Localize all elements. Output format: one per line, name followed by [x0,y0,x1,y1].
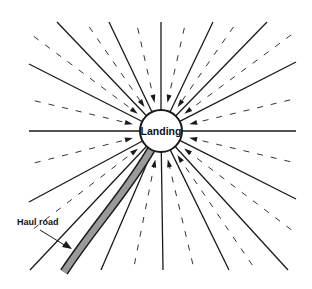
skid-flow-dashed-line [35,101,127,123]
skid-flow-dashed-line [195,139,290,162]
landing-skid-pattern-diagram: Landing Haul road [0,0,312,289]
flow-arrowhead [151,159,156,167]
skid-flow-dashed-line [35,140,127,163]
skid-trail-boundary-line [180,62,296,121]
flow-arrowhead [184,149,192,156]
haul-road-leader-line [40,230,66,246]
flow-arrowhead [178,99,185,107]
flow-arrowhead [138,99,145,107]
flow-arrowhead [167,94,172,102]
skid-flow-dashed-line [134,165,154,264]
skid-trail-boundary-line [170,150,229,270]
skid-flow-dashed-line [169,165,193,264]
flow-arrowhead [125,138,133,143]
haul-road-label: Haul road [17,217,59,227]
flow-arrowhead [124,120,132,125]
flow-arrowhead [189,120,197,125]
haul-road-leader-arrowhead [62,241,72,249]
flow-arrowhead [130,107,138,114]
flow-arrowhead [184,107,192,114]
flow-arrowhead [130,149,138,156]
skid-trail-boundary-line [30,146,147,270]
flow-arrowhead [150,94,155,102]
skid-trail-boundary-line [176,22,267,116]
flow-arrowhead [167,159,172,167]
flow-arrowhead [177,155,184,163]
skid-trail-boundary-line [170,22,213,112]
skid-trail-boundary-line [57,22,147,116]
skid-flow-dashed-line [181,160,253,265]
landing-label: Landing [141,125,182,137]
skid-trail-boundary-line [161,152,163,270]
skid-trail-boundary-line [175,147,288,270]
flow-arrowhead [189,137,197,142]
skid-flow-dashed-line [195,100,290,123]
